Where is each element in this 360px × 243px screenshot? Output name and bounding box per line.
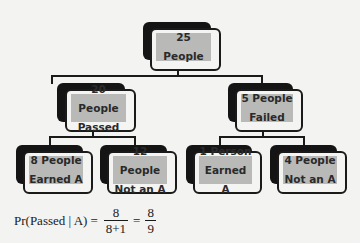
connector-to-passed-a [49,136,51,145]
formula-equals: = [90,213,97,229]
node-face: 4 People Not an A [277,151,347,194]
node-passed-not-a: 12 People Not an A [100,145,177,194]
fraction-numerator: 8 [111,206,122,219]
node-passed: 20 People Passed [57,83,136,132]
fraction-numerator: 8 [145,206,156,219]
connector-level2-horizontal [51,75,263,77]
bayes-formula: Pr(Passed | A) = 8 8+1 = 8 9 [14,206,159,235]
connector-to-failed-not-a [303,136,305,145]
node-label-outcome: Passed [78,118,120,137]
node-label-outcome: Earned A [199,161,252,199]
formula-lhs: Pr(Passed | A) [14,213,87,229]
fraction-1: 8 8+1 [104,206,128,235]
fraction-denominator: 9 [145,222,156,235]
node-passed-earned-a: 8 People Earned A [16,145,93,194]
node-face: 12 People Not an A [107,151,177,194]
fraction-denominator: 8+1 [104,222,128,235]
node-root: 25 People [143,22,221,71]
node-label-outcome: Failed [249,108,284,127]
node-label-count: 20 People [71,80,126,118]
node-label-count: 12 People [113,142,167,180]
node-label: 25 People [156,28,211,66]
node-label-count: 1 Person [200,142,252,161]
node-failed-earned-a: 1 Person Earned A [186,145,262,194]
node-label-outcome: Not an A [284,170,335,189]
node-failed: 5 People Failed [228,83,303,132]
node-label-outcome: Not an A [114,180,165,199]
node-face: 1 Person Earned A [193,151,262,194]
node-face: 8 People Earned A [23,151,93,194]
node-label-count: 4 People [284,151,335,170]
node-failed-not-a: 4 People Not an A [270,145,347,194]
node-face: 25 People [150,28,221,71]
node-label-outcome: Earned A [29,170,82,189]
formula-equals: = [133,213,140,229]
node-label-count: 8 People [30,151,81,170]
connector-failed-horizontal [219,136,305,138]
fraction-2: 8 9 [145,206,156,235]
node-face: 5 People Failed [235,89,303,132]
node-label-count: 5 People [241,89,292,108]
connector-to-passed [51,75,53,84]
node-face: 20 People Passed [65,89,136,132]
